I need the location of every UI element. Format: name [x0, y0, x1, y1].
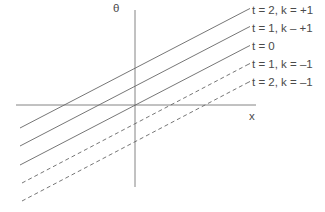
characteristic-line-0: [20, 10, 247, 128]
characteristic-line-1: [20, 28, 247, 146]
line-label-t1-kplus: t = 1, k – +1: [252, 23, 313, 35]
line-label-t1-kminus: t = 1, k = –1: [252, 59, 313, 71]
characteristic-line-2: [20, 47, 247, 165]
label-leader-3: [247, 64, 250, 66]
characteristic-line-3: [22, 65, 247, 183]
line-label-t2-kminus: t = 2, k = –1: [252, 77, 313, 89]
characteristic-line-4: [22, 83, 247, 201]
label-leader-4: [247, 82, 250, 84]
line-label-t0: t = 0: [252, 41, 275, 53]
theta-axis-label: θ: [113, 3, 119, 15]
x-axis-label: x: [249, 111, 255, 123]
label-leader-0: [247, 9, 250, 11]
label-leader-2: [247, 46, 250, 48]
label-leader-1: [247, 27, 250, 29]
line-label-t2-kplus: t = 2, k = +1: [252, 5, 313, 17]
